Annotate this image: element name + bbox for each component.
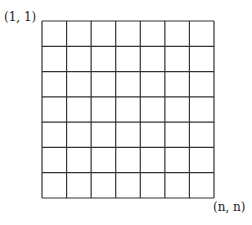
bottom-right-corner-label: (n, n): [213, 201, 245, 213]
grid-lines: [0, 0, 252, 225]
top-left-corner-label: (1, 1): [4, 11, 36, 23]
